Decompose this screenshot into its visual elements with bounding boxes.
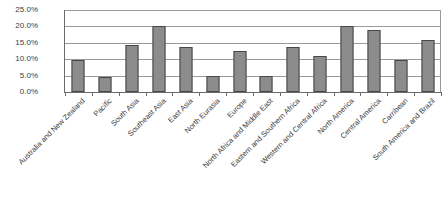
bar[interactable]	[206, 76, 219, 92]
bar-chart: 0.0%5.0%10.0%15.0%20.0%25.0% Australia a…	[0, 0, 448, 206]
bars-layer	[65, 10, 441, 92]
bar[interactable]	[421, 40, 434, 92]
bar[interactable]	[99, 77, 112, 92]
bar-slot	[172, 10, 199, 92]
x-axis-label: Europe	[225, 97, 248, 120]
bar-slot	[307, 10, 334, 92]
x-axis-tick	[92, 92, 93, 96]
y-tick-label: 15.0%	[15, 39, 38, 47]
bar[interactable]	[314, 56, 327, 92]
x-axis-tick	[441, 92, 442, 96]
bar[interactable]	[126, 45, 139, 92]
bar-slot	[387, 10, 414, 92]
bar-slot	[65, 10, 92, 92]
bar[interactable]	[260, 76, 273, 92]
x-axis-tick	[65, 92, 66, 96]
x-axis-tick	[253, 92, 254, 96]
x-axis-tick	[119, 92, 120, 96]
bar-slot	[360, 10, 387, 92]
bar-slot	[253, 10, 280, 92]
bar[interactable]	[287, 47, 300, 92]
x-axis-tick	[334, 92, 335, 96]
bar[interactable]	[72, 60, 85, 92]
bar[interactable]	[340, 26, 353, 92]
x-axis-label: Australia and New Zealand	[18, 97, 87, 166]
bar-slot	[226, 10, 253, 92]
bar-slot	[280, 10, 307, 92]
bar-slot	[119, 10, 146, 92]
bar-slot	[146, 10, 173, 92]
bar-slot	[199, 10, 226, 92]
y-tick-label: 25.0%	[15, 6, 38, 14]
x-axis-tick	[307, 92, 308, 96]
y-tick-label: 10.0%	[15, 55, 38, 63]
x-axis-tick	[360, 92, 361, 96]
y-tick-label: 0.0%	[20, 88, 38, 96]
bar-slot	[92, 10, 119, 92]
x-axis-tick	[146, 92, 147, 96]
y-tick-label: 20.0%	[15, 22, 38, 30]
y-tick-label: 5.0%	[20, 72, 38, 80]
x-axis-tick	[280, 92, 281, 96]
bar[interactable]	[152, 26, 165, 92]
x-axis-tick	[199, 92, 200, 96]
x-axis-tick	[414, 92, 415, 96]
bar[interactable]	[367, 30, 380, 92]
bar[interactable]	[233, 51, 246, 92]
bar[interactable]	[394, 60, 407, 92]
bar-slot	[334, 10, 361, 92]
x-axis-tick	[172, 92, 173, 96]
x-axis-label: Pacific	[93, 97, 114, 118]
x-axis-tick	[226, 92, 227, 96]
y-axis: 0.0%5.0%10.0%15.0%20.0%25.0%	[0, 0, 62, 100]
x-axis-tick	[387, 92, 388, 96]
bar[interactable]	[179, 47, 192, 92]
plot-area	[64, 10, 441, 93]
bar-slot	[414, 10, 441, 92]
x-axis-category-labels: Australia and New ZealandPacificSouth As…	[64, 97, 448, 206]
